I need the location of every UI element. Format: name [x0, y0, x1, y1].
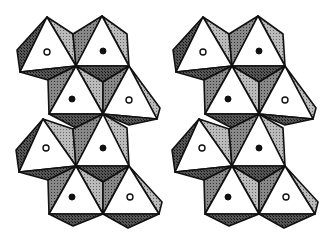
stereo-polyhedra-diagram — [0, 0, 333, 237]
atom-filled — [100, 48, 106, 54]
left-stereo-view — [16, 16, 162, 228]
atom-open — [43, 145, 49, 151]
atom-open — [127, 194, 133, 200]
atom-open — [126, 97, 132, 103]
atom-open — [283, 194, 289, 200]
atom-filled — [225, 96, 231, 102]
atom-filled — [100, 145, 106, 151]
atom-open — [199, 145, 205, 151]
atom-filled — [256, 145, 262, 151]
right-stereo-view — [172, 16, 318, 228]
atom-filled — [69, 96, 75, 102]
atom-filled — [69, 194, 75, 200]
atom-filled — [256, 48, 262, 54]
atom-open — [200, 49, 206, 55]
atom-filled — [225, 194, 231, 200]
atom-open — [44, 49, 50, 55]
atom-open — [282, 97, 288, 103]
